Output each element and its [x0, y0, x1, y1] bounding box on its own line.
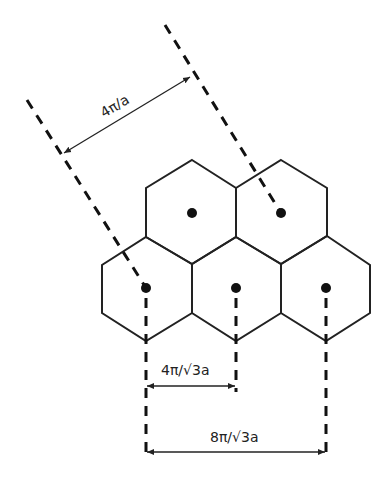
- lattice-diagram: 4π/a 4π/√3a 8π/√3a: [0, 0, 391, 479]
- lattice-point: [321, 283, 331, 293]
- label-long-spacing: 8π/√3a: [210, 429, 258, 445]
- arrow-diagonal: [64, 77, 190, 153]
- label-short-spacing: 4π/√3a: [161, 362, 209, 378]
- hexagons: [102, 160, 370, 341]
- dashed-guides: [27, 25, 326, 458]
- label-diagonal-spacing: 4π/a: [97, 91, 132, 120]
- lattice-point: [231, 283, 241, 293]
- lattice-point: [187, 208, 197, 218]
